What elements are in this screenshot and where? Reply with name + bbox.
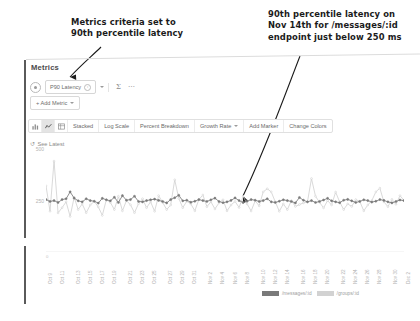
toolbar-button-add-marker[interactable]: Add Marker <box>244 120 284 132</box>
add-metric-label: + Add Metric <box>36 100 67 106</box>
toolbar-label: Growth Rate <box>200 123 231 129</box>
x-axis-tick: Nov 24 <box>353 269 358 284</box>
x-axis-tick: Nov 4 <box>220 272 225 284</box>
x-axis-tick: Nov 20 <box>325 269 330 284</box>
info-icon[interactable]: i <box>84 84 91 91</box>
table-icon[interactable] <box>55 120 68 132</box>
x-axis-tick: Oct 13 <box>76 270 81 284</box>
x-axis-labels: 0 Oct 9Oct 11Oct 13Oct 15Oct 17Oct 19Oct… <box>46 254 404 296</box>
x-axis-tick: Oct 15 <box>88 270 93 284</box>
panel-top-hairline <box>26 53 420 60</box>
annotation-left-text: Metrics criteria set to 90th percentile … <box>71 17 183 40</box>
legend-label: /groups/:id <box>337 291 359 296</box>
x-axis-tick: Nov 6 <box>233 272 238 284</box>
toolbar-button-log-scale[interactable]: Log Scale <box>99 120 135 132</box>
toolbar-button-change-colors[interactable]: Change Colors <box>284 120 331 132</box>
chart-plot-area <box>46 148 404 252</box>
toolbar-button-percent-breakdown[interactable]: Percent Breakdown <box>135 120 195 132</box>
x-axis-tick: Oct 17 <box>100 270 105 284</box>
x-axis-tick: Nov 26 <box>365 269 370 284</box>
metric-pill[interactable]: P90 Latency i <box>45 80 96 94</box>
x-axis-tick: Oct 31 <box>192 270 197 284</box>
toolbar-label: Stacked <box>73 123 93 129</box>
x-axis-tick: Nov 10 <box>261 269 266 284</box>
chevron-down-icon[interactable] <box>100 86 104 88</box>
x-axis-tick: Nov 12 <box>273 269 278 284</box>
y-axis-tick-500: 500 <box>28 146 44 152</box>
x-axis-tick: Dec 2 <box>406 272 411 284</box>
metric-row: P90 Latency i Σ ⋯ <box>30 80 136 94</box>
x-axis-tick: Oct 9 <box>48 273 53 284</box>
x-axis-origin-label: 0 <box>46 254 48 259</box>
annotation-right-text: 90th percentile latency on Nov 14th for … <box>268 9 402 43</box>
x-axis-tick: Oct 11 <box>60 271 65 284</box>
x-axis-tick: Oct 27 <box>168 270 173 284</box>
page-title: Metrics <box>31 63 59 72</box>
ellipsis-icon[interactable]: ⋯ <box>128 83 136 91</box>
toolbar-button-stacked[interactable]: Stacked <box>68 120 99 132</box>
x-axis-tick: Oct 19 <box>112 270 117 284</box>
x-axis-tick: Oct 23 <box>140 270 145 284</box>
latency-chart: 500 250 0 Oct 9Oct 11Oct 13Oct 15Oct 17O… <box>28 148 406 300</box>
x-axis-tick: Oct 21 <box>128 270 133 284</box>
legend-item-messages[interactable]: /messages/:id <box>262 291 312 296</box>
x-axis-tick: Nov 8 <box>245 272 250 284</box>
chart-legend: /messages/:id /groups/:id <box>262 291 359 296</box>
x-axis-tick: Nov 2 <box>208 272 213 284</box>
radio-icon[interactable] <box>30 82 41 93</box>
x-axis-tick: Nov 18 <box>313 269 318 284</box>
x-axis-tick: Nov 22 <box>341 269 346 284</box>
chevron-down-icon <box>70 102 74 104</box>
toolbar-label: Percent Breakdown <box>140 123 189 129</box>
toolbar-button-growth-rate[interactable]: Growth Rate <box>195 120 244 132</box>
x-axis-tick: Nov 16 <box>301 269 306 284</box>
x-axis-tick: Nov 14 <box>285 269 290 284</box>
legend-label: /messages/:id <box>282 291 312 296</box>
metric-label: P90 Latency <box>50 84 81 90</box>
chevron-down-icon <box>234 125 238 127</box>
chart-toolbar: Stacked Log Scale Percent Breakdown Grow… <box>28 119 333 133</box>
toolbar-label: Add Marker <box>249 123 278 129</box>
add-metric-button[interactable]: + Add Metric <box>30 96 80 110</box>
legend-swatch <box>262 291 279 296</box>
x-axis-tick: Nov 30 <box>393 269 398 284</box>
divider <box>108 83 109 92</box>
legend-swatch <box>317 291 334 296</box>
legend-item-groups[interactable]: /groups/:id <box>317 291 359 296</box>
toolbar-label: Change Colors <box>289 123 326 129</box>
panel-left-rail-lower <box>24 246 26 304</box>
y-axis-tick-250: 250 <box>28 198 44 204</box>
x-axis-tick: Oct 25 <box>152 270 157 284</box>
screenshot-root: Metrics criteria set to 90th percentile … <box>0 0 420 321</box>
panel-left-rail <box>24 60 26 238</box>
sigma-icon[interactable]: Σ <box>113 83 124 91</box>
bar-chart-icon[interactable] <box>29 120 42 132</box>
toolbar-label: Log Scale <box>104 123 129 129</box>
line-chart-icon[interactable] <box>42 120 55 132</box>
x-axis-tick: Nov 28 <box>377 269 382 284</box>
x-axis-tick: Oct 29 <box>180 270 185 284</box>
